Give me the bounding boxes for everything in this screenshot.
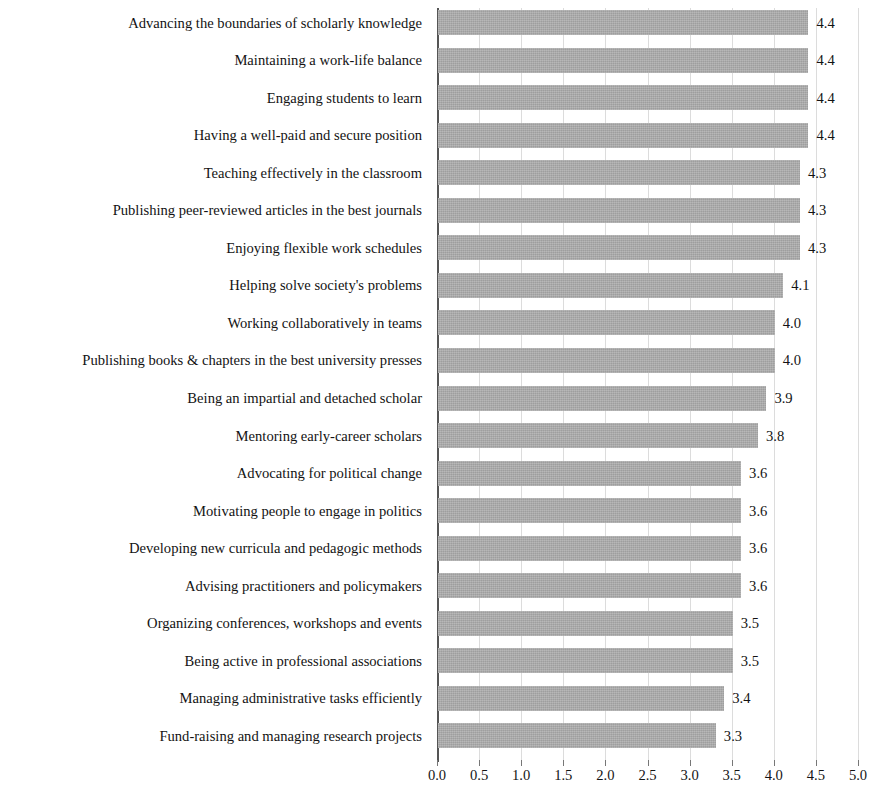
bar <box>438 10 808 35</box>
bar-value-label: 4.4 <box>816 127 834 143</box>
bar-value-label: 3.6 <box>749 578 767 594</box>
x-axis-tick-label: 5.0 <box>849 766 867 784</box>
bar-value-label: 4.1 <box>791 277 809 293</box>
bar <box>438 723 716 748</box>
bar <box>438 386 766 411</box>
gridline <box>858 8 859 760</box>
category-label: Working collaboratively in teams <box>0 315 430 331</box>
bar-value-label: 4.3 <box>808 202 826 218</box>
bar <box>438 573 741 598</box>
bar <box>438 235 800 260</box>
bar <box>438 123 808 148</box>
bar-value-label: 4.3 <box>808 240 826 256</box>
x-axis-tick-label: 4.5 <box>807 766 825 784</box>
bar <box>438 310 775 335</box>
plot-area: 0.00.51.01.52.02.53.03.54.04.55.04.44.44… <box>437 0 874 789</box>
gridline <box>774 8 775 760</box>
category-label: Publishing peer-reviewed articles in the… <box>0 202 430 218</box>
bar-value-label: 4.0 <box>783 315 801 331</box>
bar <box>438 348 775 373</box>
gridline <box>563 8 564 760</box>
category-label: Managing administrative tasks efficientl… <box>0 690 430 706</box>
gridline <box>816 8 817 760</box>
bar-value-label: 3.8 <box>766 428 784 444</box>
gridline <box>690 8 691 760</box>
x-axis-tick-label: 1.5 <box>554 766 572 784</box>
gridline <box>605 8 606 760</box>
bar-value-label: 4.4 <box>816 15 834 31</box>
x-axis-tick-label: 2.0 <box>596 766 614 784</box>
bar-value-label: 4.4 <box>816 52 834 68</box>
x-axis-tick-label: 2.5 <box>638 766 656 784</box>
bar-value-label: 3.5 <box>741 653 759 669</box>
category-label: Being an impartial and detached scholar <box>0 390 430 406</box>
bar <box>438 198 800 223</box>
category-label: Developing new curricula and pedagogic m… <box>0 540 430 556</box>
bar <box>438 686 724 711</box>
category-label: Helping solve society's problems <box>0 277 430 293</box>
bar <box>438 648 733 673</box>
category-label: Maintaining a work-life balance <box>0 52 430 68</box>
x-axis-tick-label: 0.0 <box>428 766 446 784</box>
bar-value-label: 3.5 <box>741 615 759 631</box>
bar-value-label: 3.4 <box>732 690 750 706</box>
gridline <box>479 8 480 760</box>
bar-value-label: 4.4 <box>816 90 834 106</box>
bar <box>438 160 800 185</box>
bar <box>438 423 758 448</box>
bar <box>438 85 808 110</box>
x-axis-tick-label: 3.0 <box>680 766 698 784</box>
category-label: Organizing conferences, workshops and ev… <box>0 615 430 631</box>
bar-value-label: 3.6 <box>749 540 767 556</box>
x-axis-tick-label: 3.5 <box>723 766 741 784</box>
bar-value-label: 3.6 <box>749 503 767 519</box>
category-label: Engaging students to learn <box>0 90 430 106</box>
category-label: Mentoring early-career scholars <box>0 428 430 444</box>
gridline <box>521 8 522 760</box>
category-label: Advancing the boundaries of scholarly kn… <box>0 15 430 31</box>
category-label: Motivating people to engage in politics <box>0 503 430 519</box>
bar <box>438 273 783 298</box>
category-label: Enjoying flexible work schedules <box>0 240 430 256</box>
bar <box>438 611 733 636</box>
bar-value-label: 3.6 <box>749 465 767 481</box>
category-label: Advising practitioners and policymakers <box>0 578 430 594</box>
category-label: Publishing books & chapters in the best … <box>0 352 430 368</box>
horizontal-bar-chart: Advancing the boundaries of scholarly kn… <box>0 0 874 789</box>
bar-value-label: 3.9 <box>774 390 792 406</box>
x-axis-tick-label: 4.0 <box>765 766 783 784</box>
category-label: Being active in professional association… <box>0 653 430 669</box>
bar-value-label: 3.3 <box>724 728 742 744</box>
bar-value-label: 4.3 <box>808 165 826 181</box>
bar-value-label: 4.0 <box>783 352 801 368</box>
x-axis-tick-label: 0.5 <box>470 766 488 784</box>
gridline <box>732 8 733 760</box>
category-label: Teaching effectively in the classroom <box>0 165 430 181</box>
bar <box>438 48 808 73</box>
x-axis-tick-label: 1.0 <box>512 766 530 784</box>
bar <box>438 461 741 486</box>
category-label: Fund-raising and managing research proje… <box>0 728 430 744</box>
category-label: Having a well-paid and secure position <box>0 127 430 143</box>
category-axis-labels: Advancing the boundaries of scholarly kn… <box>0 0 430 789</box>
bar <box>438 498 741 523</box>
bar <box>438 536 741 561</box>
gridline <box>648 8 649 760</box>
category-label: Advocating for political change <box>0 465 430 481</box>
